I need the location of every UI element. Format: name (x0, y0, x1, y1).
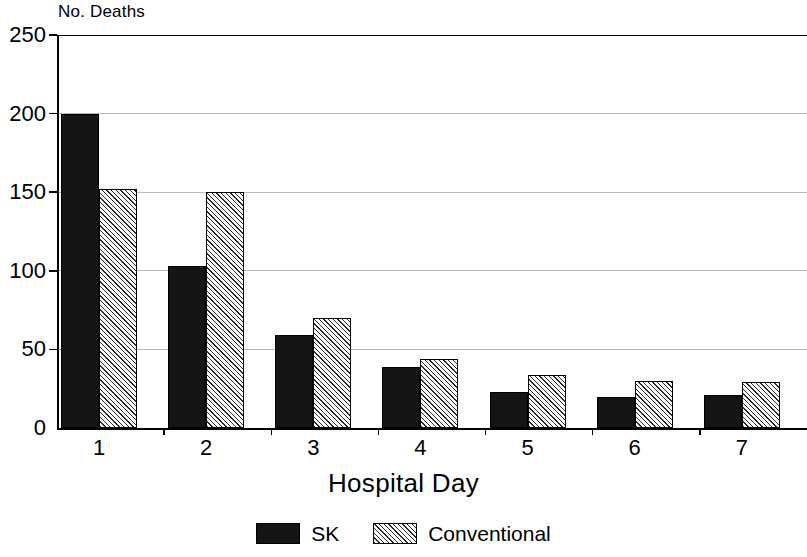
y-axis-title: No. Deaths (58, 2, 145, 22)
bar (635, 381, 673, 428)
x-axis-line (57, 428, 807, 430)
bar (742, 382, 780, 428)
x-tick-mark (271, 428, 273, 435)
x-tick-label: 3 (293, 437, 333, 459)
legend-entry: Conventional (373, 523, 551, 544)
bar (597, 397, 635, 428)
x-tick-label: 4 (400, 437, 440, 459)
x-tick-mark (378, 428, 380, 435)
bar (420, 359, 458, 428)
y-tick-label: 150 (0, 181, 46, 203)
x-tick-mark (485, 428, 487, 435)
x-tick-label: 1 (79, 437, 119, 459)
y-tick-mark (49, 270, 57, 272)
bar (275, 335, 313, 428)
bar (704, 395, 742, 428)
x-tick-label: 6 (615, 437, 655, 459)
x-axis-title: Hospital Day (0, 468, 807, 499)
y-tick-mark (49, 113, 57, 115)
bar (168, 266, 206, 428)
y-tick-mark (49, 191, 57, 193)
chart-legend: SKConventional (0, 523, 807, 544)
legend-entry: SK (256, 523, 339, 544)
legend-label: SK (311, 523, 339, 544)
bar (313, 318, 351, 428)
y-tick-label: 0 (0, 417, 46, 439)
legend-swatch (373, 523, 417, 544)
legend-label: Conventional (428, 523, 551, 544)
x-tick-label: 2 (186, 437, 226, 459)
bar (382, 367, 420, 428)
x-tick-mark (699, 428, 701, 435)
legend-swatch (256, 523, 300, 544)
x-tick-mark (163, 428, 165, 435)
y-tick-label: 250 (0, 24, 46, 46)
bar-chart-figure: No. Deaths 050100150200250 1234567 Hospi… (0, 0, 807, 557)
y-tick-mark (49, 349, 57, 351)
bar (490, 392, 528, 428)
bar (61, 114, 99, 428)
bar (99, 189, 137, 428)
y-tick-label: 50 (0, 338, 46, 360)
y-tick-mark (49, 34, 57, 36)
bar (528, 375, 566, 428)
x-tick-mark (592, 428, 594, 435)
bars-layer (57, 35, 807, 428)
x-tick-label: 5 (508, 437, 548, 459)
y-tick-label: 100 (0, 260, 46, 282)
bar (206, 192, 244, 428)
x-tick-label: 7 (722, 437, 762, 459)
y-tick-label: 200 (0, 103, 46, 125)
